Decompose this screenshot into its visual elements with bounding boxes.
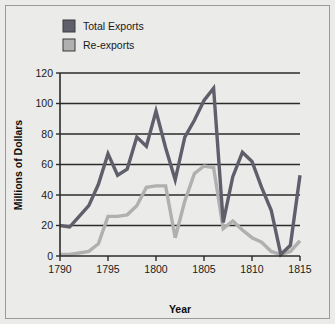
x-tick-label: 1815 bbox=[288, 263, 312, 275]
y-tick-label: 20 bbox=[41, 219, 53, 231]
y-tick-label: 0 bbox=[47, 250, 53, 262]
x-tick-label: 1790 bbox=[48, 263, 72, 275]
x-axis-title: Year bbox=[169, 303, 191, 315]
y-tick-label: 120 bbox=[35, 67, 53, 79]
legend-label: Re-exports bbox=[83, 39, 134, 51]
chart-figure: 179017951800180518101815 020406080100120… bbox=[0, 0, 335, 324]
y-axis-title: Millions of Dollars bbox=[12, 120, 24, 211]
gridlines-group bbox=[60, 73, 300, 226]
series-line-total-exports bbox=[60, 88, 300, 254]
x-tick-label: 1795 bbox=[96, 263, 120, 275]
x-tick-label: 1805 bbox=[192, 263, 216, 275]
x-tick-label: 1800 bbox=[144, 263, 168, 275]
legend-group: Total ExportsRe-exports bbox=[63, 20, 144, 51]
y-tick-label: 80 bbox=[41, 128, 53, 140]
y-tick-label: 60 bbox=[41, 158, 53, 170]
legend-swatch-re-exports bbox=[63, 39, 75, 51]
y-tick-label: 100 bbox=[35, 97, 53, 109]
x-tick-group: 179017951800180518101815 bbox=[48, 256, 312, 275]
y-tick-label: 40 bbox=[41, 189, 53, 201]
series-group bbox=[60, 88, 300, 254]
plot-container: 179017951800180518101815 020406080100120… bbox=[0, 0, 335, 324]
series-line-re-exports bbox=[60, 166, 300, 254]
legend-label: Total Exports bbox=[83, 20, 144, 32]
x-tick-label: 1810 bbox=[240, 263, 264, 275]
y-tick-group: 020406080100120 bbox=[35, 67, 60, 262]
legend-swatch-total-exports bbox=[63, 20, 75, 32]
line-chart: 179017951800180518101815 020406080100120… bbox=[0, 0, 335, 324]
